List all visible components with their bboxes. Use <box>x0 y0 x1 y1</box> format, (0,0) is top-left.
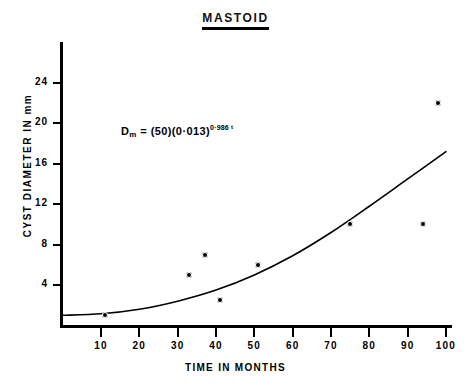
scatter-point <box>255 262 261 268</box>
equation-exponent-variable: t <box>231 124 233 130</box>
x-axis-tick <box>445 328 447 337</box>
chart-title: MASTOID <box>0 11 471 30</box>
x-axis-tick-label: 80 <box>352 340 386 351</box>
scatter-point <box>217 297 223 303</box>
equation-equals: = <box>137 125 151 137</box>
equation-lhs-subscript: m <box>129 130 137 139</box>
scatter-point <box>420 221 426 227</box>
x-axis-tick <box>330 328 332 337</box>
x-axis-tick-label: 10 <box>84 340 118 351</box>
x-axis-tick <box>292 328 294 337</box>
x-axis-tick-label: 40 <box>199 340 233 351</box>
y-axis-tick-label: 24 <box>18 76 48 87</box>
scatter-point <box>435 100 441 106</box>
x-axis-tick <box>215 328 217 337</box>
x-axis-tick-label: 60 <box>276 340 310 351</box>
y-axis-tick-label: 12 <box>18 197 48 208</box>
x-axis-tick <box>407 328 409 337</box>
y-axis-tick <box>53 284 62 286</box>
y-axis-tick-label: 20 <box>18 116 48 127</box>
equation-exponent: 0·986 <box>210 124 229 131</box>
scatter-point <box>102 312 108 318</box>
x-axis-tick-label: 50 <box>237 340 271 351</box>
x-axis-title: TIME IN MONTHS <box>0 362 471 373</box>
scatter-point <box>186 272 192 278</box>
x-axis-tick <box>177 328 179 337</box>
y-axis-tick <box>53 82 62 84</box>
y-axis-tick-label: 4 <box>18 278 48 289</box>
y-axis-tick <box>53 122 62 124</box>
equation-factor-a: (50) <box>151 125 172 137</box>
x-axis-tick-label: 20 <box>122 340 156 351</box>
equation-factor-b: (0·013) <box>172 125 210 137</box>
x-axis-tick-label: 30 <box>161 340 195 351</box>
y-axis-tick-label: 8 <box>18 238 48 249</box>
x-axis-tick <box>100 328 102 337</box>
x-axis-tick <box>253 328 255 337</box>
x-axis-tick-label: 100 <box>429 340 463 351</box>
x-axis-tick <box>368 328 370 337</box>
y-axis-tick <box>53 203 62 205</box>
chart-title-text: MASTOID <box>202 11 268 30</box>
scatter-point <box>202 252 208 258</box>
x-axis-tick-label: 90 <box>391 340 425 351</box>
y-axis-tick <box>53 163 62 165</box>
fit-curve-layer <box>0 0 471 390</box>
model-equation-annotation: Dm = (50)(0·013)0·986t <box>121 124 233 139</box>
fit-curve-path <box>63 152 446 316</box>
x-axis-tick-label: 70 <box>314 340 348 351</box>
scatter-point <box>347 221 353 227</box>
y-axis-tick <box>53 244 62 246</box>
chart-figure: MASTOID CYST DIAMETER IN mm TIME IN MONT… <box>0 0 471 390</box>
x-axis-line <box>60 325 452 328</box>
x-axis-tick <box>138 328 140 337</box>
y-axis-tick-label: 16 <box>18 157 48 168</box>
